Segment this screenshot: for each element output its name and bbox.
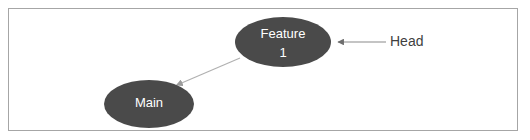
annotation-head[interactable]: Head [338,33,423,49]
edge-line [177,58,240,85]
node-label-line2: 1 [279,45,286,60]
node-label-line1: Main [135,95,163,110]
node-label-line1: Feature [261,26,306,41]
diagram-canvas: Feature 1 Main Head [0,0,530,140]
annotation-head-label: Head [390,33,423,49]
node-main[interactable]: Main [104,80,194,128]
edge-feature1-to-main[interactable] [177,58,240,85]
diagram-graphic: Feature 1 Main Head [0,0,530,140]
node-feature-1[interactable]: Feature 1 [235,17,331,67]
